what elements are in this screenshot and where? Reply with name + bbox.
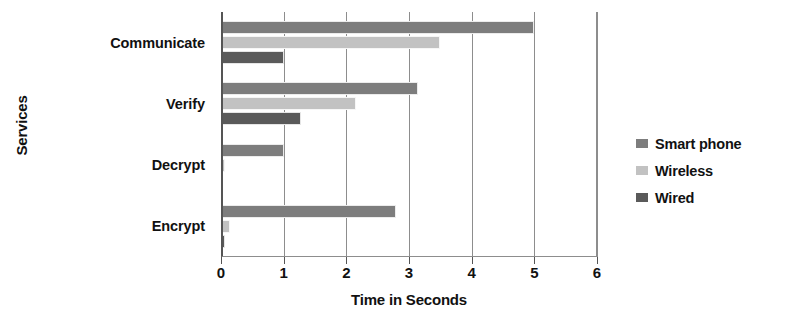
x-tick-label-5: 5 bbox=[519, 264, 549, 281]
plot-frame bbox=[221, 12, 597, 257]
x-tick-4 bbox=[472, 257, 473, 264]
category-label-verify: Verify bbox=[166, 96, 205, 112]
legend-label: Smart phone bbox=[655, 136, 741, 152]
x-tick-label-4: 4 bbox=[457, 264, 487, 281]
x-tick-label-6: 6 bbox=[582, 264, 612, 281]
smart-phone-swatch-icon bbox=[636, 139, 648, 148]
category-label-communicate: Communicate bbox=[110, 35, 205, 51]
y-axis-title: Services bbox=[13, 61, 30, 191]
x-tick-5 bbox=[534, 257, 535, 264]
legend-item-wired[interactable]: Wired bbox=[636, 184, 801, 211]
x-tick-6 bbox=[597, 257, 598, 264]
legend: Smart phoneWirelessWired bbox=[636, 130, 801, 211]
bar-chart: Services CommunicateVerifyDecryptEncrypt… bbox=[0, 0, 807, 330]
x-tick-2 bbox=[346, 257, 347, 264]
legend-item-smart-phone[interactable]: Smart phone bbox=[636, 130, 801, 157]
x-tick-0 bbox=[221, 257, 222, 264]
x-tick-3 bbox=[409, 257, 410, 264]
legend-label: Wireless bbox=[655, 163, 713, 179]
plot-area bbox=[221, 12, 597, 257]
category-label-decrypt: Decrypt bbox=[152, 157, 205, 173]
wireless-swatch-icon bbox=[636, 166, 648, 175]
x-tick-label-2: 2 bbox=[331, 264, 361, 281]
x-tick-1 bbox=[284, 257, 285, 264]
legend-item-wireless[interactable]: Wireless bbox=[636, 157, 801, 184]
y-axis-category-labels: CommunicateVerifyDecryptEncrypt bbox=[55, 12, 213, 257]
wired-swatch-icon bbox=[636, 193, 648, 202]
x-axis-tick-labels: 0123456 bbox=[221, 264, 597, 288]
x-axis-title: Time in Seconds bbox=[221, 291, 597, 308]
x-tick-label-3: 3 bbox=[394, 264, 424, 281]
x-tick-label-0: 0 bbox=[206, 264, 236, 281]
gridline-6 bbox=[597, 12, 598, 257]
x-tick-label-1: 1 bbox=[269, 264, 299, 281]
category-label-encrypt: Encrypt bbox=[152, 218, 205, 234]
legend-label: Wired bbox=[655, 190, 694, 206]
